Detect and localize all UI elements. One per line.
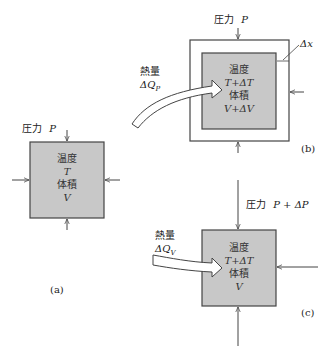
heat-text-b: 熱量 xyxy=(140,65,160,78)
pressure-label-b: 圧力 P xyxy=(214,14,248,26)
pressure-text-a: 圧力 xyxy=(22,123,42,134)
volume-label-b: 体積 xyxy=(202,89,276,102)
pressure-label-a: 圧力 P xyxy=(22,123,56,135)
volume-symbol-a: V xyxy=(30,191,104,204)
pressure-symbol-a: P xyxy=(49,123,56,134)
delta-x-label: Δx xyxy=(300,38,313,50)
temp-symbol-c: T+ΔT xyxy=(202,254,276,267)
volume-symbol-b: V+ΔV xyxy=(202,102,276,115)
temp-label-b: 温度 xyxy=(202,63,276,76)
caption-a: (a) xyxy=(50,284,64,296)
heat-text-c: 熱量 xyxy=(155,229,175,242)
volume-label-a: 体積 xyxy=(30,178,104,191)
state-text-b: 温度 T+ΔT 体積 V+ΔV xyxy=(202,63,276,115)
pressure-symbol-b: P xyxy=(241,14,248,25)
pressure-text-c: 圧力 xyxy=(246,199,266,210)
volume-label-c: 体積 xyxy=(202,267,276,280)
heat-symbol-b: ΔQ xyxy=(140,79,155,90)
temp-symbol-a: T xyxy=(30,165,104,178)
heat-label-c: 熱量 ΔQV xyxy=(155,229,175,260)
pressure-text-b: 圧力 xyxy=(214,14,234,25)
temp-label-c: 温度 xyxy=(202,241,276,254)
heat-symbol-c: ΔQ xyxy=(155,243,170,254)
caption-c: (c) xyxy=(301,307,314,319)
caption-b: (b) xyxy=(301,143,315,155)
temp-label-a: 温度 xyxy=(30,152,104,165)
heat-label-b: 熱量 ΔQP xyxy=(140,65,160,96)
state-text-a: 温度 T 体積 V xyxy=(30,152,104,204)
temp-symbol-b: T+ΔT xyxy=(202,76,276,89)
heat-subscript-c: V xyxy=(170,249,175,257)
pressure-label-c: 圧力 P + ΔP xyxy=(246,199,309,211)
state-text-c: 温度 T+ΔT 体積 V xyxy=(202,241,276,293)
pressure-symbol-c: P + ΔP xyxy=(273,199,308,210)
volume-symbol-c: V xyxy=(202,280,276,293)
heat-subscript-b: P xyxy=(155,85,160,93)
